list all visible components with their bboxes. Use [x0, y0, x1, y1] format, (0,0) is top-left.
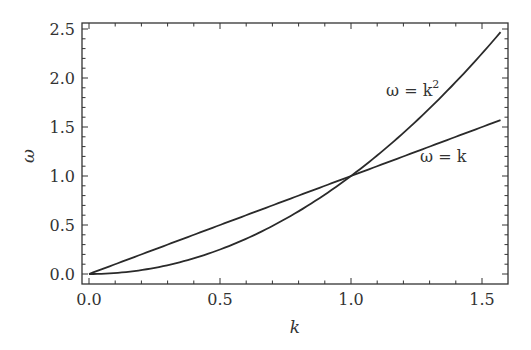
curve-omega-k	[89, 120, 501, 274]
y-tick-label: 1.5	[50, 118, 75, 137]
y-tick-label: 0.5	[50, 216, 75, 235]
label-omega-k: ω = k	[420, 147, 467, 166]
y-axis-label: ω	[18, 149, 38, 163]
x-tick-label: 0.0	[76, 290, 101, 309]
chart: 0.00.51.01.50.00.51.01.52.02.5 ω = k2 ω …	[0, 0, 531, 350]
x-tick-label: 0.5	[207, 290, 232, 309]
y-tick-label: 2.5	[50, 20, 75, 39]
y-tick-label: 1.0	[50, 167, 75, 186]
label-omega-k-squared: ω = k2	[386, 78, 439, 100]
y-tick-label: 0.0	[50, 265, 75, 284]
x-axis-label: k	[290, 317, 300, 337]
y-tick-label: 2.0	[50, 69, 75, 88]
x-tick-label: 1.5	[469, 290, 494, 309]
x-tick-label: 1.0	[338, 290, 363, 309]
